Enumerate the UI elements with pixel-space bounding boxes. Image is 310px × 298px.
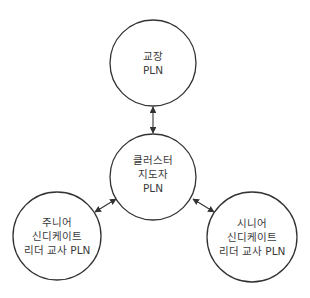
node-cluster: 클러스터 지도자 PLN bbox=[110, 134, 196, 214]
node-label-line: 리더 교사 PLN bbox=[24, 243, 91, 257]
node-principal: 교장 PLN bbox=[110, 20, 196, 106]
node-label-line: 클러스터 bbox=[133, 153, 173, 167]
node-label-line: 시니어 bbox=[237, 216, 267, 230]
node-junior: 주니어 신디케이트 리더 교사 PLN bbox=[13, 192, 101, 280]
node-label-line: PLN bbox=[143, 63, 163, 77]
node-label-line: PLN bbox=[143, 181, 163, 195]
node-label-line: 리더 교사 PLN bbox=[219, 244, 286, 258]
node-label-line: 교장 bbox=[143, 49, 163, 63]
node-label-line: 주니어 bbox=[42, 215, 72, 229]
node-label-line: 신디케이트 bbox=[32, 229, 82, 243]
node-senior: 시니어 신디케이트 리더 교사 PLN bbox=[207, 192, 297, 282]
node-label-line: 신디케이트 bbox=[227, 230, 277, 244]
node-label-line: 지도자 bbox=[138, 167, 168, 181]
